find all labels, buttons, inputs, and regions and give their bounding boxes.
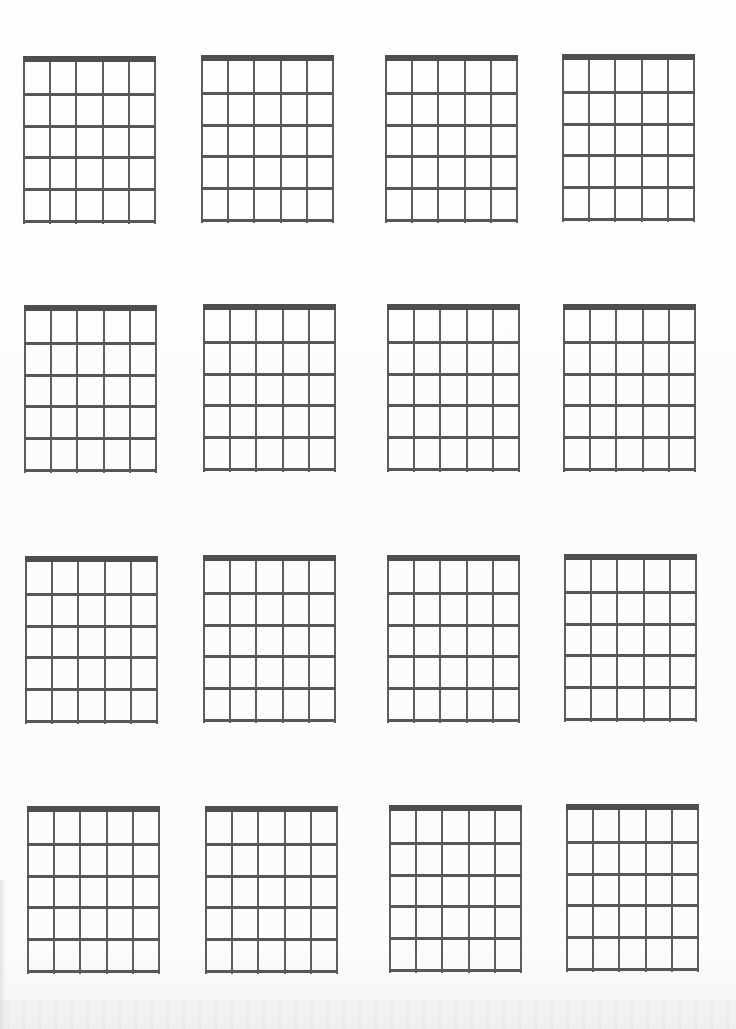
fret-line [387,719,520,722]
fret-line [201,92,334,95]
string-line [332,55,334,223]
string-line [518,555,520,723]
fret-line [387,373,520,376]
string-line [592,804,594,972]
fret-line [563,341,696,344]
fret-line [27,970,160,973]
fret-line [566,968,699,971]
fret-line [24,374,157,377]
nut-bar [25,556,158,562]
nut-bar [564,554,697,560]
string-line [255,304,257,472]
fret-line [562,154,695,157]
string-line [645,804,647,972]
string-line [77,556,79,724]
string-line [76,305,78,473]
string-line [280,55,282,223]
string-line [466,555,468,723]
string-line [253,55,255,223]
fret-line [385,155,518,158]
fret-line [203,687,336,690]
fret-line [564,623,697,626]
fret-line [385,92,518,95]
fret-line [203,341,336,344]
string-line [128,56,130,224]
string-line [564,554,566,722]
chord-diagram-r2-c4 [563,304,696,472]
string-line [615,304,617,472]
fret-line [203,655,336,658]
fret-line [23,188,156,191]
fret-line [23,93,156,96]
string-line [590,554,592,722]
string-line [25,556,27,724]
fret-line [563,404,696,407]
fret-line [389,842,522,845]
chord-diagram-r3-c4 [564,554,697,722]
string-line [387,555,389,723]
string-line [203,555,205,723]
chord-diagram-r4-c1 [27,806,160,974]
fret-line [389,969,522,972]
string-line [227,55,229,223]
fret-line [563,373,696,376]
fret-line [23,125,156,128]
fret-line [203,719,336,722]
string-line [492,555,494,723]
fret-line [387,436,520,439]
fret-line [562,186,695,189]
chord-diagram-r4-c3 [389,805,522,973]
fret-line [205,938,338,941]
fret-line [566,936,699,939]
fret-line [25,656,158,659]
string-line [231,806,233,974]
string-line [671,804,673,972]
string-line [155,305,157,473]
nut-bar [387,304,520,310]
chord-diagram-r2-c1 [24,305,157,473]
string-line [229,555,231,723]
string-line [387,304,389,472]
string-line [205,806,207,974]
string-line [53,806,55,974]
string-line [562,54,564,222]
string-line [129,305,131,473]
string-line [516,55,518,223]
string-line [257,806,259,974]
string-line [389,805,391,973]
fret-line [389,905,522,908]
chord-diagram-r1-c2 [201,55,334,223]
fret-line [24,469,157,472]
fret-line [387,341,520,344]
nut-bar [201,55,334,61]
fret-line [389,937,522,940]
string-line [643,554,645,722]
nut-bar [203,304,336,310]
string-line [154,56,156,224]
fret-line [387,687,520,690]
fret-line [564,686,697,689]
string-line [282,304,284,472]
string-line [695,554,697,722]
fret-line [562,91,695,94]
chord-diagram-r3-c1 [25,556,158,724]
string-line [284,806,286,974]
string-line [694,304,696,472]
fret-line [205,970,338,973]
nut-bar [24,305,157,311]
fret-line [564,718,697,721]
string-line [130,556,132,724]
fret-line [24,437,157,440]
chord-diagram-r4-c4 [566,804,699,972]
chord-diagram-r2-c2 [203,304,336,472]
fret-line [24,405,157,408]
string-line [616,554,618,722]
string-line [490,55,492,223]
fret-line [562,218,695,221]
fret-line [566,904,699,907]
fret-line [566,841,699,844]
string-line [466,304,468,472]
string-line [308,555,310,723]
fret-line [24,342,157,345]
fret-line [387,404,520,407]
